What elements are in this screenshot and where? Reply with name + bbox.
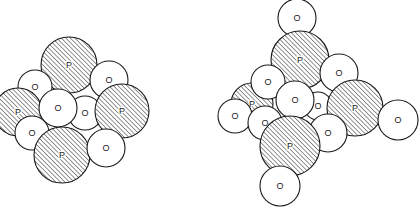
atom-label: P (352, 103, 358, 113)
atom-label: O (81, 108, 88, 118)
left-molecule-model: POOPOPOOPO (0, 37, 149, 183)
atom-label: O (102, 143, 109, 153)
atom-label: O (276, 181, 283, 191)
oxygen-atom: O (276, 81, 314, 119)
phosphorus-atom: P (260, 116, 320, 176)
atom-label: P (15, 107, 21, 117)
atom-label: O (264, 77, 271, 87)
atom-label: O (28, 128, 35, 138)
oxygen-atom: O (260, 166, 300, 206)
atom-label: P (66, 60, 72, 70)
atom-label: P (297, 55, 303, 65)
atom-label: P (59, 150, 65, 160)
oxygen-atom: O (378, 100, 418, 140)
atom-label: O (335, 68, 342, 78)
atom-label: O (293, 13, 300, 23)
atom-label: O (324, 128, 331, 138)
atom-label: P (119, 106, 125, 116)
molecule-diagram: POOPOPOOPO OPOPOOOPOOOOPO (0, 0, 419, 211)
atom-label: O (105, 75, 112, 85)
atom-label: O (394, 115, 401, 125)
atom-label: O (31, 82, 38, 92)
oxygen-atom: O (87, 129, 125, 167)
atom-label: O (314, 101, 321, 111)
right-molecule-model: OPOPOOOPOOOOPO (218, 0, 418, 206)
phosphorus-atom: P (34, 127, 90, 183)
atom-label: P (287, 141, 293, 151)
atom-label: O (54, 103, 61, 113)
atom-label: O (231, 111, 238, 121)
oxygen-atom: O (218, 99, 252, 133)
atom-label: O (291, 95, 298, 105)
